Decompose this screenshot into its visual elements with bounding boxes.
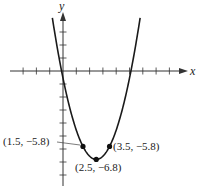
x-axis-label: x (189, 64, 196, 78)
data-point (80, 144, 85, 149)
highlighted-points (80, 144, 112, 162)
vertex-label: (2.5, −6.8) (75, 161, 122, 174)
right-point-label: (3.5, −5.8) (113, 140, 160, 153)
parabola-curve (52, 18, 140, 160)
left-point-label: (1.5, −5.8) (3, 135, 50, 148)
data-point (107, 144, 112, 149)
parabola-chart: y x (1.5, −5.8) (3.5, −5.8) (2.5, −6.8) (0, 0, 199, 188)
y-axis-label: y (58, 0, 65, 13)
left-point-leader-line (57, 142, 80, 145)
axes (10, 12, 188, 186)
